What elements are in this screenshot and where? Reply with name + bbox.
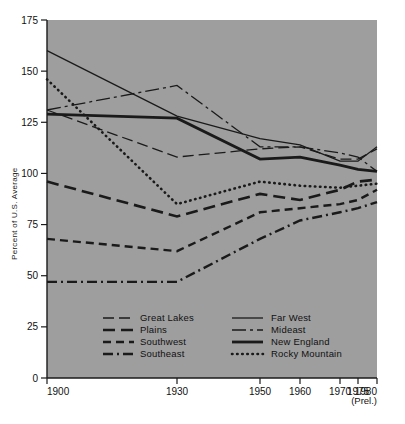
x-axis-note: (Prel.) — [351, 395, 377, 406]
y-tick-label: 100 — [21, 168, 38, 179]
y-tick-label: 25 — [27, 321, 39, 332]
line-chart: 0255075100125150175 19001930195019601970… — [0, 0, 405, 424]
chart-figure: 0255075100125150175 19001930195019601970… — [0, 0, 405, 424]
legend-label-southeast[interactable]: Southeast — [140, 348, 185, 359]
x-tick-label: 1950 — [249, 386, 272, 397]
legend-label-plains[interactable]: Plains — [140, 324, 167, 335]
y-tick-label: 175 — [21, 15, 38, 26]
y-axis-title: Percent of U.S. Average — [10, 167, 19, 260]
y-tick-label: 50 — [27, 270, 39, 281]
y-tick-label: 150 — [21, 66, 38, 77]
legend-label-mideast[interactable]: Mideast — [271, 324, 306, 335]
legend-label-great-lakes[interactable]: Great Lakes — [140, 312, 194, 323]
legend-label-far-west[interactable]: Far West — [271, 312, 311, 323]
x-tick-label: 1900 — [47, 386, 70, 397]
legend-label-rocky-mountain[interactable]: Rocky Mountain — [271, 348, 342, 359]
legend-label-new-england[interactable]: New England — [271, 336, 330, 347]
legend-label-southwest[interactable]: Southwest — [140, 336, 186, 347]
x-tick-label: 1960 — [289, 386, 312, 397]
plot-area-background — [47, 20, 377, 378]
y-tick-label: 75 — [27, 219, 39, 230]
y-tick-label: 125 — [21, 117, 38, 128]
x-tick-label: 1930 — [166, 386, 189, 397]
y-tick-label: 0 — [32, 373, 38, 384]
